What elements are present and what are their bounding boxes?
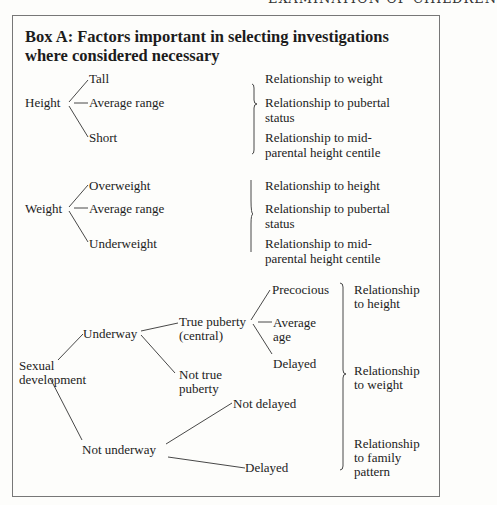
height-branch-short: Short [89, 130, 117, 145]
height-rel-midparental: Relationship to mid- [265, 130, 372, 145]
sexual-rel-weight: Relationship [354, 363, 420, 378]
weight-branch-overweight: Overweight [89, 178, 150, 193]
sexual-root-2: development [19, 372, 86, 387]
sexual-average-age: Average [273, 315, 316, 330]
sexual-rel-family-3: pattern [354, 464, 390, 479]
sexual-rel-height-2: to height [354, 296, 400, 311]
height-rel-midparental-2: parental height centile [265, 145, 381, 160]
sexual-precocious: Precocious [272, 282, 329, 297]
weight-branch-underweight: Underweight [89, 236, 157, 251]
weight-branch-average: Average range [89, 201, 164, 216]
height-rel-pubertal: Relationship to pubertal [265, 95, 390, 110]
sexual-rel-height: Relationship [354, 282, 420, 297]
weight-rel-pubertal-2: status [265, 216, 295, 231]
weight-rel-height: Relationship to height [265, 178, 380, 193]
sexual-not-true: Not true [179, 367, 222, 382]
sexual-not-true-2: puberty [179, 381, 219, 396]
sexual-true-puberty-2: (central) [179, 328, 223, 343]
sexual-rel-weight-2: to weight [354, 377, 403, 392]
sexual-root: Sexual [19, 358, 54, 373]
height-branch-average: Average range [89, 95, 164, 110]
weight-rel-pubertal: Relationship to pubertal [265, 201, 390, 216]
sexual-underway: Underway [83, 326, 137, 341]
height-root: Height [25, 95, 60, 110]
weight-rel-midparental-2: parental height centile [265, 251, 381, 266]
sexual-true-puberty: True puberty [179, 314, 246, 329]
sexual-delayed-tp: Delayed [273, 356, 316, 371]
height-rel-pubertal-2: status [265, 110, 295, 125]
sexual-average-age-2: age [273, 329, 291, 344]
sexual-not-delayed: Not delayed [233, 396, 296, 411]
height-rel-weight: Relationship to weight [265, 71, 383, 86]
sexual-not-underway: Not underway [82, 442, 156, 457]
sexual-rel-family: Relationship [354, 436, 420, 451]
sexual-rel-family-2: to family [354, 450, 401, 465]
weight-root: Weight [25, 201, 62, 216]
height-branch-tall: Tall [89, 71, 109, 86]
sexual-delayed-nu: Delayed [245, 460, 288, 475]
weight-rel-midparental: Relationship to mid- [265, 236, 372, 251]
